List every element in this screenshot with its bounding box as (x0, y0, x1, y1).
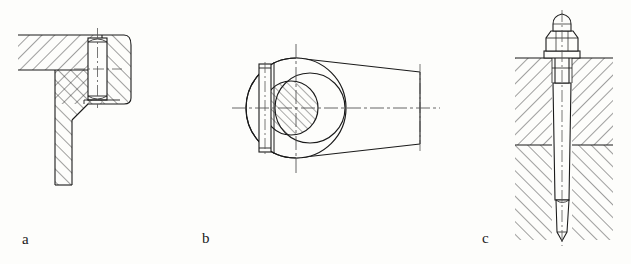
lower-plate-right-hatch (572, 145, 613, 240)
drawing-sheet: a b c (0, 0, 631, 264)
figure-a (18, 28, 131, 185)
upper-plate-right-hatch (572, 58, 613, 145)
lower-plate-left-hatch (515, 145, 552, 240)
figure-label-b: b (202, 231, 210, 246)
pin-tip-body (556, 200, 569, 241)
figure-label-a: a (22, 232, 29, 247)
upper-plate-left-hatch (515, 58, 552, 145)
figure-c-pin-tip (556, 200, 569, 241)
figure-b (232, 44, 440, 174)
technical-drawing-canvas (0, 0, 631, 264)
figure-label-c: c (482, 231, 489, 246)
figure-c (515, 10, 613, 246)
